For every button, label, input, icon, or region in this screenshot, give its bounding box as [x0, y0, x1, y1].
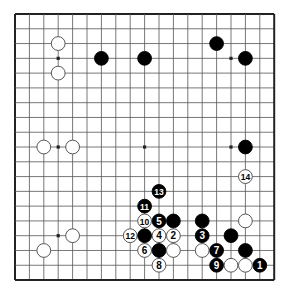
move-number: 9	[214, 260, 220, 271]
white-stone	[224, 258, 238, 272]
white-stone: 4	[152, 229, 166, 243]
white-stone: 8	[152, 258, 166, 272]
star-point	[57, 234, 60, 237]
white-stone	[167, 244, 181, 258]
move-number: 11	[140, 202, 149, 212]
black-stone: 13	[152, 184, 166, 198]
black-stone	[224, 229, 238, 243]
star-point	[229, 57, 232, 60]
move-number: 3	[199, 230, 205, 241]
white-stone	[66, 140, 80, 154]
white-stone: 6	[138, 244, 152, 258]
move-number: 4	[156, 230, 162, 241]
white-stone	[239, 214, 253, 228]
black-stone	[210, 37, 224, 51]
move-number: 2	[171, 230, 177, 241]
stones-layer: 1234567891011121314	[37, 37, 267, 273]
black-stone	[152, 244, 166, 258]
black-stone	[239, 244, 253, 258]
star-point	[229, 145, 232, 148]
black-stone	[239, 140, 253, 154]
move-number: 5	[156, 216, 162, 227]
white-stone	[66, 229, 80, 243]
black-stone: 11	[138, 199, 152, 213]
white-stone	[51, 66, 65, 80]
star-point	[143, 145, 146, 148]
white-stone	[37, 140, 51, 154]
black-stone	[195, 214, 209, 228]
move-number: 6	[142, 245, 148, 256]
move-number: 10	[140, 217, 150, 227]
black-stone	[239, 51, 253, 65]
move-number: 7	[214, 245, 220, 256]
move-number: 8	[156, 260, 162, 271]
black-stone	[138, 229, 152, 243]
black-stone: 1	[253, 258, 267, 272]
white-stone: 12	[123, 229, 137, 243]
black-stone	[95, 51, 109, 65]
star-point	[57, 145, 60, 148]
move-number: 12	[125, 231, 135, 241]
black-stone	[167, 214, 181, 228]
black-stone: 7	[210, 244, 224, 258]
move-number: 13	[154, 187, 164, 197]
white-stone: 10	[138, 214, 152, 228]
white-stone	[239, 258, 253, 272]
white-stone	[195, 244, 209, 258]
black-stone	[138, 51, 152, 65]
star-point	[57, 57, 60, 60]
go-board-diagram: 1234567891011121314	[0, 0, 283, 296]
black-stone: 9	[210, 258, 224, 272]
move-number: 14	[241, 172, 251, 182]
move-number: 1	[257, 260, 263, 271]
white-stone: 14	[239, 170, 253, 184]
white-stone: 2	[167, 229, 181, 243]
black-stone: 3	[195, 229, 209, 243]
white-stone	[51, 37, 65, 51]
white-stone	[37, 244, 51, 258]
black-stone: 5	[152, 214, 166, 228]
